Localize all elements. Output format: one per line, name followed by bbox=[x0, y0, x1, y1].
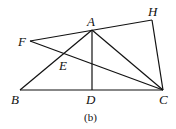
label-A: A bbox=[86, 14, 95, 29]
geometry-diagram: H A F E B D C (b) bbox=[0, 0, 176, 129]
label-F: F bbox=[17, 34, 27, 49]
label-H: H bbox=[147, 4, 158, 19]
label-D: D bbox=[85, 92, 96, 107]
caption: (b) bbox=[84, 111, 97, 124]
label-E: E bbox=[58, 58, 67, 73]
segment-HC bbox=[152, 20, 163, 90]
segment-AC bbox=[92, 30, 163, 90]
label-C: C bbox=[159, 92, 168, 107]
label-B: B bbox=[11, 92, 19, 107]
